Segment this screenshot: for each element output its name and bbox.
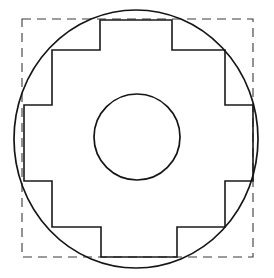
stepped-cruciform-outline <box>24 20 253 257</box>
geometric-figure-svg <box>0 0 274 278</box>
figure-canvas <box>0 0 274 278</box>
inner-bore-circle <box>94 94 180 180</box>
dashed-bounding-square <box>22 19 253 257</box>
outer-circumscribed-circle <box>14 10 258 268</box>
